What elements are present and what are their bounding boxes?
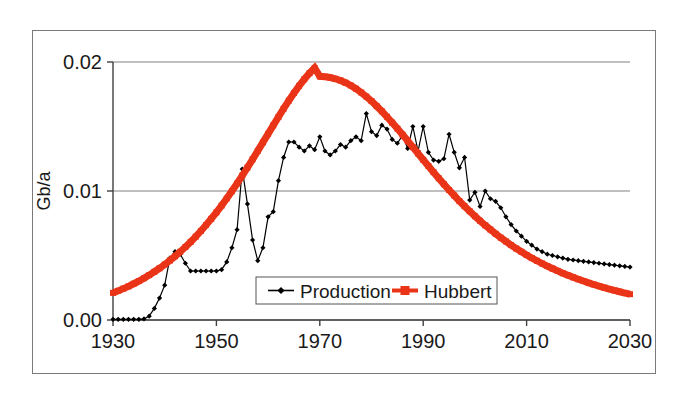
data-point	[586, 259, 591, 264]
data-point	[234, 181, 240, 187]
data-point	[570, 274, 576, 280]
data-point	[276, 178, 281, 183]
data-point	[198, 228, 204, 234]
data-point	[343, 80, 349, 86]
data-point	[229, 188, 235, 194]
data-point	[539, 260, 545, 266]
legend-marker-1	[401, 286, 410, 295]
data-point	[581, 259, 586, 264]
x-tick-label-4: 2010	[504, 330, 549, 352]
data-point	[182, 244, 188, 250]
data-point	[131, 317, 136, 322]
data-point	[410, 144, 416, 150]
data-point	[121, 317, 126, 322]
data-point	[126, 317, 131, 322]
data-point	[250, 156, 256, 162]
series-hubbert	[110, 65, 633, 297]
data-point	[265, 131, 271, 137]
data-point	[363, 94, 369, 100]
data-point	[157, 295, 162, 300]
data-point	[286, 98, 292, 104]
data-point	[317, 73, 323, 79]
data-point	[312, 65, 318, 71]
data-point	[255, 258, 260, 263]
data-point	[198, 268, 203, 273]
data-point	[322, 74, 328, 80]
data-point	[296, 83, 302, 89]
data-point	[503, 238, 509, 244]
data-point	[446, 132, 451, 137]
data-point	[544, 263, 550, 269]
data-point	[405, 138, 411, 144]
data-point	[508, 242, 514, 248]
data-point	[141, 316, 146, 321]
data-point	[281, 106, 287, 112]
data-point	[529, 255, 535, 261]
data-point	[162, 283, 167, 288]
data-point	[575, 276, 581, 282]
data-point	[260, 139, 266, 145]
data-point	[281, 155, 286, 160]
data-point	[457, 165, 462, 170]
data-point	[255, 148, 261, 154]
data-point	[337, 77, 343, 83]
data-point	[555, 254, 560, 259]
data-point	[606, 286, 612, 292]
data-point	[157, 265, 163, 271]
data-point	[353, 86, 359, 92]
data-point	[420, 157, 426, 163]
data-point	[415, 150, 421, 156]
data-point	[611, 287, 617, 293]
data-point	[421, 124, 426, 129]
data-point	[482, 222, 488, 228]
data-point	[260, 245, 265, 250]
data-point	[622, 290, 628, 296]
y-tick-label-1: 0.01	[63, 180, 102, 202]
data-point	[436, 159, 441, 164]
data-point	[601, 285, 607, 291]
data-point	[498, 235, 504, 241]
data-point	[203, 268, 208, 273]
data-point	[193, 268, 198, 273]
data-point	[446, 187, 452, 193]
x-tick-label-5: 2030	[608, 330, 653, 352]
data-point	[560, 270, 566, 276]
data-point	[126, 283, 132, 289]
x-tick-label-0: 1930	[91, 330, 136, 352]
data-point	[301, 76, 307, 82]
data-point	[560, 255, 565, 260]
data-point	[477, 218, 483, 224]
data-point	[374, 103, 380, 109]
data-point	[441, 156, 446, 161]
data-point	[146, 272, 152, 278]
data-point	[524, 252, 530, 258]
data-point	[250, 237, 255, 242]
data-point	[348, 82, 354, 88]
legend-label-1: Hubbert	[424, 281, 492, 302]
data-point	[545, 252, 550, 257]
data-point	[291, 90, 297, 96]
data-point	[580, 278, 586, 284]
data-point	[177, 249, 183, 255]
data-point	[245, 201, 250, 206]
data-point	[487, 227, 493, 233]
data-point	[131, 281, 137, 287]
data-point	[410, 124, 415, 129]
data-point	[115, 288, 121, 294]
data-point	[586, 280, 592, 286]
data-point	[477, 204, 482, 209]
data-point	[203, 222, 209, 228]
data-point	[617, 289, 623, 295]
y-tick-label-2: 0.02	[63, 51, 102, 73]
chart-plot-area: 0.000.010.02193019501970199020102030Gb/a…	[0, 0, 683, 394]
data-point	[270, 122, 276, 128]
data-point	[441, 181, 447, 187]
data-point	[162, 262, 168, 268]
x-tick-label-3: 1990	[401, 330, 446, 352]
data-point	[472, 213, 478, 219]
data-point	[591, 282, 597, 288]
data-point	[317, 134, 322, 139]
data-point	[306, 70, 312, 76]
data-point	[379, 108, 385, 114]
data-point	[602, 261, 607, 266]
